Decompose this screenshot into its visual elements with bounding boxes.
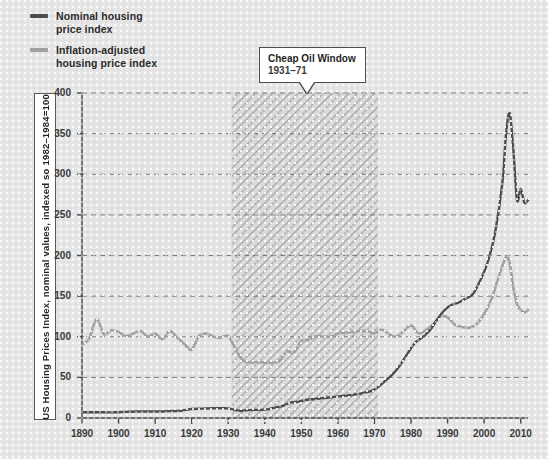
- x-tick-label: 2000: [464, 428, 504, 439]
- y-tick-label: 400: [41, 87, 71, 98]
- y-tick-label: 250: [41, 209, 71, 220]
- x-tick-label: 1930: [208, 428, 248, 439]
- x-tick-label: 1960: [318, 428, 358, 439]
- y-tick-label: 350: [41, 128, 71, 139]
- x-tick-label: 1900: [99, 428, 139, 439]
- y-tick-label: 100: [41, 331, 71, 342]
- x-tick-label: 1890: [62, 428, 102, 439]
- legend-label-inflation-adjusted: Inflation-adjusted housing price index: [56, 44, 157, 69]
- callout-title: Cheap Oil Window: [268, 53, 356, 65]
- chart-legend: Nominal housing price index Inflation-ad…: [30, 10, 157, 78]
- x-tick-label: 1940: [245, 428, 285, 439]
- x-tick-label: 1970: [354, 428, 394, 439]
- y-tick-label: 150: [41, 290, 71, 301]
- x-tick-label: 1980: [391, 428, 431, 439]
- legend-swatch-inflation-adjusted: [30, 48, 48, 52]
- x-tick-label: 1990: [428, 428, 468, 439]
- legend-swatch-nominal: [30, 14, 48, 18]
- y-tick-label: 200: [41, 250, 71, 261]
- x-tick-label: 2010: [501, 428, 541, 439]
- y-tick-label: 0: [41, 412, 71, 423]
- legend-item-nominal: Nominal housing price index: [30, 10, 157, 35]
- y-tick-label: 300: [41, 168, 71, 179]
- x-tick-label: 1920: [172, 428, 212, 439]
- callout-pointer-icon: [300, 82, 314, 93]
- callout-subtitle: 1931–71: [268, 65, 356, 77]
- x-tick-label: 1910: [135, 428, 175, 439]
- cheap-oil-window-callout: Cheap Oil Window 1931–71: [259, 47, 366, 83]
- x-tick-label: 1950: [281, 428, 321, 439]
- legend-label-nominal: Nominal housing price index: [56, 10, 143, 35]
- y-tick-label: 50: [41, 371, 71, 382]
- legend-item-inflation-adjusted: Inflation-adjusted housing price index: [30, 44, 157, 69]
